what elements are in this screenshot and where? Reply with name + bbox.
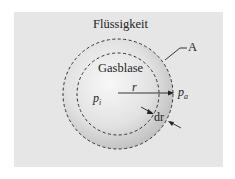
surface-label: A [188, 41, 197, 54]
bubble-label: Gasblase [98, 62, 143, 75]
radius-label: r [132, 81, 137, 93]
liquid-label: Flüssigkeit [93, 18, 148, 31]
thickness-label: dr [154, 111, 164, 123]
inner-pressure-label: pi [93, 92, 101, 107]
sphere [63, 39, 173, 149]
outer-pressure-label: pa [178, 86, 188, 101]
